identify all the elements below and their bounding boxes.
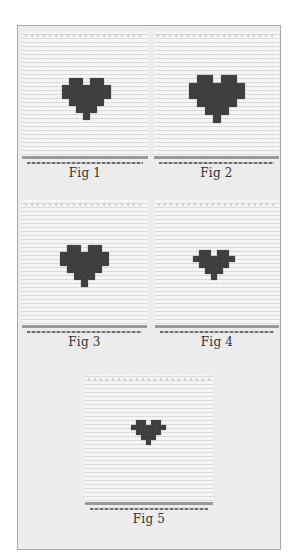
fabric-fringe xyxy=(85,502,213,505)
cross-stitch xyxy=(81,259,88,266)
cross-stitch xyxy=(83,106,90,113)
stitched-heart xyxy=(193,250,235,280)
cross-stitch xyxy=(62,92,69,99)
fabric-fringe xyxy=(155,325,279,328)
empty-cell xyxy=(62,106,69,113)
cross-stitch xyxy=(76,99,83,106)
cross-stitch xyxy=(213,115,221,123)
empty-cell xyxy=(67,280,74,287)
cross-stitch xyxy=(74,252,81,259)
cross-stitch xyxy=(81,280,88,287)
cross-stitch xyxy=(74,245,81,252)
empty-cell xyxy=(69,106,76,113)
cross-stitch xyxy=(90,99,97,106)
cross-stitch xyxy=(213,107,221,115)
cross-stitch xyxy=(221,107,229,115)
cross-stitch xyxy=(213,83,221,91)
figure-plate: Fig 1 Fig 2 Fig 3 Fig 4 xyxy=(17,25,281,550)
empty-cell xyxy=(90,113,97,120)
empty-cell xyxy=(197,107,205,115)
cross-stitch xyxy=(102,252,109,259)
cross-stitch xyxy=(221,83,229,91)
cross-stitch xyxy=(60,259,67,266)
page: Fig 1 Fig 2 Fig 3 Fig 4 xyxy=(0,0,302,560)
cross-stitch xyxy=(90,78,97,85)
cross-stitch xyxy=(69,92,76,99)
stitched-heart xyxy=(131,420,166,445)
empty-cell xyxy=(104,78,111,85)
cross-stitch xyxy=(83,85,90,92)
stitched-heart xyxy=(62,78,111,120)
fabric-swatch xyxy=(154,31,279,159)
cross-stitch xyxy=(69,85,76,92)
figure-2: Fig 2 xyxy=(154,31,279,181)
cross-stitch xyxy=(83,92,90,99)
cross-stitch xyxy=(90,106,97,113)
empty-cell xyxy=(197,115,205,123)
empty-cell xyxy=(237,107,245,115)
cross-stitch xyxy=(197,83,205,91)
empty-cell xyxy=(104,106,111,113)
figure-caption: Fig 2 xyxy=(154,166,279,180)
cross-stitch xyxy=(229,83,237,91)
cross-stitch xyxy=(237,83,245,91)
cross-stitch xyxy=(205,107,213,115)
stitched-heart xyxy=(189,75,245,123)
cross-stitch xyxy=(95,245,102,252)
cross-stitch xyxy=(97,85,104,92)
empty-cell xyxy=(74,280,81,287)
cross-stitch xyxy=(229,91,237,99)
empty-cell xyxy=(161,440,166,445)
empty-cell xyxy=(60,266,67,273)
cross-stitch xyxy=(81,252,88,259)
cross-stitch xyxy=(221,91,229,99)
cross-stitch xyxy=(205,99,213,107)
empty-cell xyxy=(81,245,88,252)
empty-cell xyxy=(97,106,104,113)
cross-stitch xyxy=(83,99,90,106)
fabric-swatch xyxy=(22,31,148,159)
cross-stitch xyxy=(60,252,67,259)
cross-stitch xyxy=(76,92,83,99)
cross-stitch xyxy=(74,259,81,266)
cross-stitch xyxy=(197,91,205,99)
figure-caption: Fig 5 xyxy=(85,512,213,526)
cross-stitch xyxy=(83,113,90,120)
empty-cell xyxy=(60,273,67,280)
empty-cell xyxy=(88,280,95,287)
cross-stitch xyxy=(67,266,74,273)
empty-cell xyxy=(213,75,221,83)
empty-cell xyxy=(69,113,76,120)
cross-stitch xyxy=(76,85,83,92)
cross-stitch xyxy=(97,92,104,99)
cross-stitch xyxy=(97,99,104,106)
cross-stitch xyxy=(81,266,88,273)
cross-stitch xyxy=(205,83,213,91)
cross-stitch xyxy=(69,78,76,85)
cross-stitch xyxy=(205,75,213,83)
empty-cell xyxy=(102,273,109,280)
cross-stitch xyxy=(69,99,76,106)
empty-cell xyxy=(97,113,104,120)
cross-stitch xyxy=(88,273,95,280)
cross-stitch xyxy=(74,266,81,273)
cross-stitch xyxy=(213,91,221,99)
cross-stitch xyxy=(67,245,74,252)
fabric-fringe xyxy=(22,325,147,328)
cross-stitch xyxy=(74,273,81,280)
cross-stitch xyxy=(88,259,95,266)
cross-stitch xyxy=(88,252,95,259)
cross-stitch xyxy=(229,75,237,83)
cross-stitch xyxy=(81,273,88,280)
empty-cell xyxy=(189,75,197,83)
cross-stitch xyxy=(104,92,111,99)
empty-cell xyxy=(104,113,111,120)
cross-stitch xyxy=(102,259,109,266)
empty-cell xyxy=(95,273,102,280)
cross-stitch xyxy=(205,91,213,99)
cross-stitch xyxy=(76,78,83,85)
cross-stitch xyxy=(95,252,102,259)
empty-cell xyxy=(205,115,213,123)
cross-stitch xyxy=(221,99,229,107)
empty-cell xyxy=(221,115,229,123)
